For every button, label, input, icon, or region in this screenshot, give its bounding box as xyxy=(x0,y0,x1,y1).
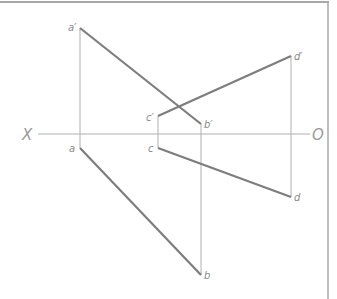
segment-c-d xyxy=(158,148,291,197)
segment-a-b xyxy=(80,148,201,275)
label-b-prime: b′ xyxy=(204,119,213,130)
segment-c-prime-d-prime xyxy=(158,56,291,116)
segment-a-prime-b-prime xyxy=(80,28,201,124)
axis-label-x: X xyxy=(21,126,33,144)
axis-label-o: O xyxy=(312,126,324,144)
label-d: d xyxy=(294,192,301,203)
projection-diagram: X O a′ a b′ b c′ c d′ d xyxy=(0,0,337,299)
label-a-prime: a′ xyxy=(68,22,77,33)
label-b: b xyxy=(204,270,210,281)
label-c-prime: c′ xyxy=(146,112,154,123)
label-c: c xyxy=(148,143,154,154)
label-d-prime: d′ xyxy=(294,51,303,62)
label-a: a xyxy=(69,143,75,154)
